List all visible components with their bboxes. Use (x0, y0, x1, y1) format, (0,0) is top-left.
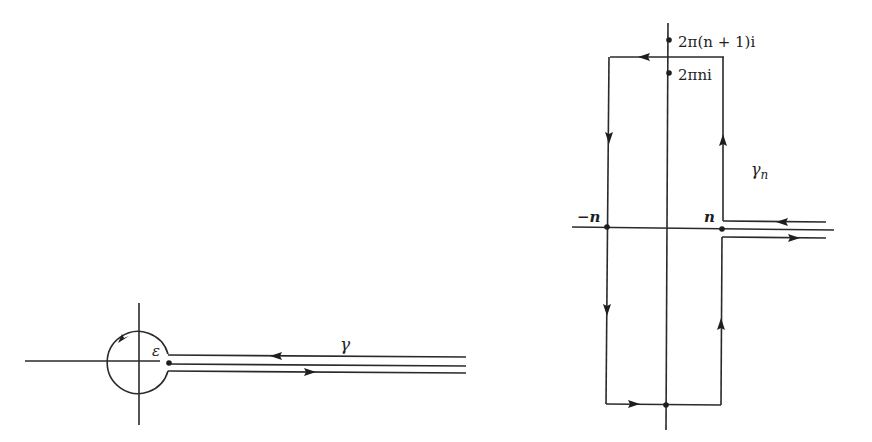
label-gamma-n: γn (751, 160, 768, 182)
slit-lower-line (722, 237, 826, 238)
point-2pi-n-i (666, 70, 672, 76)
lower-ray (168, 371, 466, 373)
slit-upper-line (723, 221, 826, 222)
branch-cut-line (168, 364, 466, 366)
rect-left-edge (606, 57, 609, 404)
real-axis-right (572, 227, 834, 230)
small-circle-arc (107, 332, 168, 394)
rectangle-contour-panel: 2π(n + 1)i 2πni −n n γn (572, 23, 834, 430)
point-2pi-n-plus-1-i (666, 37, 672, 43)
gamma-n-symbol: γ (751, 160, 761, 179)
epsilon-label: ε (152, 342, 160, 360)
gamma-n-subscript: n (761, 168, 769, 182)
upper-ray (168, 355, 466, 357)
label-pos-n: n (704, 208, 715, 226)
gamma-label: γ (340, 334, 351, 354)
epsilon-point (166, 360, 172, 366)
imag-axis-right (666, 23, 668, 430)
label-2pi-n-i: 2πni (678, 66, 712, 84)
point-pos-n (719, 226, 725, 232)
label-neg-n: −n (577, 208, 600, 226)
point-bottom (663, 402, 669, 408)
point-neg-n (604, 224, 610, 230)
contour-diagram: ε γ 2π(n + 1) (0, 0, 872, 442)
label-2pi-n-plus-1-i: 2π(n + 1)i (678, 33, 755, 51)
keyhole-contour-panel: ε γ (25, 303, 466, 425)
